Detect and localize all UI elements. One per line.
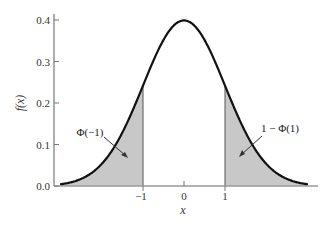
y-tick-label: 0.4	[36, 14, 50, 26]
y-axis-ticks	[54, 20, 59, 186]
normal-distribution-chart: 0.0 0.1 0.2 0.3 0.4 f(x) −1 0 1 x Φ(−1) …	[0, 0, 336, 231]
x-tick-label: 1	[222, 190, 228, 202]
shaded-region-right-tail	[225, 86, 307, 186]
y-axis-title: f(x)	[13, 95, 27, 112]
x-tick-label: −1	[135, 190, 147, 202]
y-tick-label: 0.1	[36, 139, 50, 151]
annotation-phi-minus-one: Φ(−1)	[76, 126, 103, 139]
density-curve	[61, 20, 307, 184]
annotation-one-minus-phi-one: 1 − Φ(1)	[261, 122, 299, 135]
y-tick-label: 0.0	[36, 180, 50, 192]
x-axis-title: x	[179, 203, 186, 217]
y-axis-tick-labels: 0.0 0.1 0.2 0.3 0.4	[36, 14, 50, 192]
x-tick-label: 0	[181, 190, 187, 202]
x-axis-tick-labels: −1 0 1	[135, 190, 228, 202]
y-tick-label: 0.3	[36, 56, 50, 68]
y-tick-label: 0.2	[36, 97, 50, 109]
